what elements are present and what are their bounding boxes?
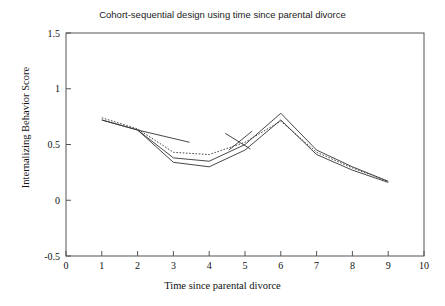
y-axis-ticks: -0.500.511.5 bbox=[44, 28, 71, 262]
x-tick-label: 6 bbox=[278, 260, 283, 271]
series-line bbox=[102, 120, 388, 182]
x-tick-label: 3 bbox=[171, 260, 176, 271]
x-tick-label: 8 bbox=[350, 260, 355, 271]
y-tick-label: 0.5 bbox=[48, 139, 61, 150]
x-tick-label: 0 bbox=[64, 260, 69, 271]
x-tick-label: 7 bbox=[314, 260, 319, 271]
plot-canvas: 012345678910 -0.500.511.5 bbox=[0, 0, 445, 306]
x-tick-label: 5 bbox=[243, 260, 248, 271]
y-tick-label: 1.5 bbox=[48, 28, 61, 39]
data-series-layer bbox=[102, 113, 388, 182]
x-tick-label: 4 bbox=[207, 260, 212, 271]
x-tick-label: 10 bbox=[419, 260, 429, 271]
y-tick-label: -0.5 bbox=[44, 251, 60, 262]
y-tick-label: 0 bbox=[55, 195, 60, 206]
chart-figure: Cohort-sequential design using time sinc… bbox=[0, 0, 445, 306]
y-tick-label: 1 bbox=[55, 83, 60, 94]
x-tick-label: 9 bbox=[386, 260, 391, 271]
series-line bbox=[102, 113, 388, 181]
x-tick-label: 2 bbox=[135, 260, 140, 271]
x-axis-ticks: 012345678910 bbox=[64, 251, 430, 271]
x-tick-label: 1 bbox=[99, 260, 104, 271]
